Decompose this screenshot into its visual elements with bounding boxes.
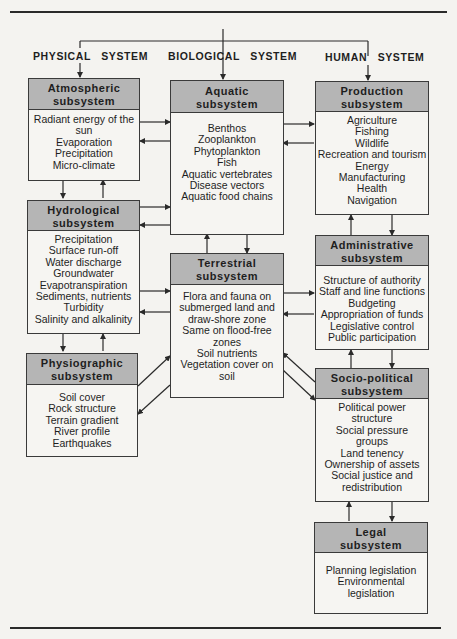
human-system-label: HUMAN SYSTEM [325,51,424,63]
list-item: Salinity and alkalinity [28,314,139,325]
list-item: Recreation and tourism [316,149,428,160]
production-subsystem-box: Production subsystem Agriculture Fishing… [315,81,429,215]
hydrological-subsystem-box: Hydrological subsystem Precipitation Sur… [27,200,140,334]
box-title: Administrative [318,239,426,252]
administrative-subsystem-header: Administrative subsystem [316,236,428,266]
administrative-subsystem-items: Structure of authority Staff and line fu… [316,266,428,343]
box-title: Aquatic [173,85,281,98]
list-item: Public participation [316,332,428,343]
list-item: Appropriation of funds [316,309,428,320]
list-item: Same on flood-free [171,325,283,336]
box-title: Terrestrial [173,257,281,270]
physiographic-subsystem-box: Physiographic subsystem Soil cover Rock … [26,353,138,457]
physiographic-subsystem-items: Soil cover Rock structure Terrain gradie… [27,385,137,449]
terrestrial-subsystem-box: Terrestrial subsystem Flora and fauna on… [170,253,284,398]
sociopolitical-subsystem-header: Socio-political subsystem [316,369,428,399]
box-subtitle: subsystem [318,252,426,265]
aquatic-subsystem-items: Benthos Zooplankton Phytoplankton Fish A… [171,113,283,203]
list-item: Navigation [316,195,428,206]
box-subtitle: subsystem [173,270,281,283]
hydrological-subsystem-header: Hydrological subsystem [28,201,139,231]
list-item: legislation [315,588,427,599]
box-subtitle: subsystem [317,539,425,552]
legal-subsystem-header: Legal subsystem [315,523,427,553]
list-item: redistribution [316,482,428,493]
atmospheric-subsystem-header: Atmospheric subsystem [29,79,139,110]
list-item: Fish [171,157,283,168]
atmospheric-subsystem-box: Atmospheric subsystem Radiant energy of … [28,78,140,181]
list-item: River profile [27,426,137,437]
administrative-subsystem-box: Administrative subsystem Structure of au… [315,235,429,350]
terrestrial-subsystem-header: Terrestrial subsystem [171,254,283,285]
hydrological-subsystem-items: Precipitation Surface run-off Water disc… [28,231,139,325]
list-item: Micro-climate [29,160,139,171]
legal-subsystem-items: Planning legislation Environmental legis… [315,553,427,599]
box-subtitle: subsystem [318,385,426,398]
box-subtitle: subsystem [29,370,135,383]
atmospheric-subsystem-items: Radiant energy of the sun Evaporation Pr… [29,110,139,171]
list-item: Aquatic food chains [171,191,283,202]
biological-system-label: BIOLOGICAL SYSTEM [168,50,297,62]
box-title: Socio-political [318,372,426,385]
sociopolitical-subsystem-box: Socio-political subsystem Political powe… [315,368,429,502]
box-subtitle: subsystem [318,98,426,111]
production-subsystem-items: Agriculture Fishing Wildlife Recreation … [316,112,428,206]
sociopolitical-subsystem-items: Political power structure Social pressur… [316,399,428,493]
list-item: Earthquakes [27,438,137,449]
legal-subsystem-box: Legal subsystem Planning legislation Env… [314,522,428,614]
list-item: soil [171,371,283,382]
aquatic-subsystem-box: Aquatic subsystem Benthos Zooplankton Ph… [170,80,284,235]
box-subtitle: subsystem [31,95,137,108]
box-title: Atmospheric [31,82,137,95]
list-item: Groundwater [28,268,139,279]
box-subtitle: subsystem [30,217,137,230]
terrestrial-subsystem-items: Flora and fauna on submerged land and dr… [171,285,283,382]
list-item: Precipitation [29,148,139,159]
physiographic-subsystem-header: Physiographic subsystem [27,354,137,385]
box-title: Production [318,85,426,98]
box-title: Hydrological [30,204,137,217]
box-subtitle: subsystem [173,98,281,111]
box-title: Legal [317,526,425,539]
production-subsystem-header: Production subsystem [316,82,428,112]
physical-system-label: PHYSICAL SYSTEM [33,50,148,62]
aquatic-subsystem-header: Aquatic subsystem [171,81,283,113]
box-title: Physiographic [29,357,135,370]
list-item: groups [316,436,428,447]
